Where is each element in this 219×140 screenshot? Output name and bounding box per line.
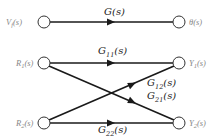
node-y1 (173, 57, 185, 69)
arrow-icon (107, 19, 115, 26)
label-g21: G21(s) (147, 90, 176, 104)
label-theta: θ(s) (189, 17, 202, 27)
label-vf: Vf(s) (6, 17, 22, 28)
label-gain-g: G(s) (104, 6, 125, 17)
node-vf (38, 16, 50, 28)
label-y2: Y2(s) (189, 118, 206, 129)
node-r1 (38, 57, 50, 69)
label-r2: R2(s) (15, 118, 34, 129)
node-r2 (38, 117, 50, 129)
label-y1: Y1(s) (189, 58, 206, 69)
label-g11: G11(s) (98, 45, 127, 59)
node-theta (173, 16, 185, 28)
label-r1: R1(s) (15, 58, 34, 69)
label-g12: G12(s) (147, 77, 176, 91)
top-signal-flow-graph: Vf(s) θ(s) G(s) (6, 6, 202, 28)
mimo-signal-flow-graph: R1(s) R2(s) Y1(s) Y2(s) G11(s) G12(s) G2… (15, 45, 206, 138)
arrow-icon (127, 97, 136, 104)
signal-flow-diagram: Vf(s) θ(s) G(s) R1(s) R2(s) Y1(s) Y2(s) … (0, 0, 219, 140)
node-y2 (173, 117, 185, 129)
label-g22: G22(s) (98, 124, 127, 138)
arrow-icon (107, 60, 115, 67)
arrow-icon (127, 83, 136, 90)
